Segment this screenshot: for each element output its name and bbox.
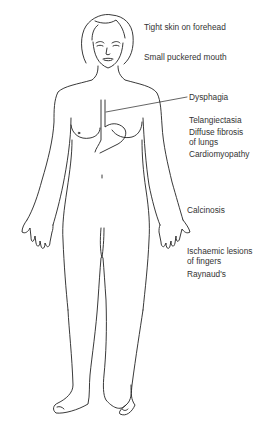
- label-small-puckered-mouth: Small puckered mouth: [144, 52, 227, 62]
- head: [82, 14, 134, 68]
- legs: [54, 258, 143, 415]
- label-raynauds: Raynaud's: [187, 269, 226, 279]
- label-calcinosis: Calcinosis: [187, 205, 225, 215]
- right-hand: [159, 220, 190, 248]
- left-hand: [22, 220, 53, 248]
- label-telangiectasia: Telangiectasia: [189, 115, 242, 125]
- label-of-fingers: of fingers: [187, 256, 221, 266]
- torso: [27, 66, 187, 310]
- label-diffuse-fibrosis: Diffuse fibrosis: [189, 127, 243, 137]
- label-of-lungs: of lungs: [189, 137, 218, 147]
- label-tight-skin-forehead: Tight skin on forehead: [144, 22, 226, 32]
- label-cardiomyopathy: Cardiomyopathy: [189, 149, 249, 159]
- label-ischaemic-lesions: Ischaemic lesions: [187, 246, 252, 256]
- label-dysphagia: Dysphagia: [189, 92, 228, 102]
- body-outline-figure: [0, 0, 271, 437]
